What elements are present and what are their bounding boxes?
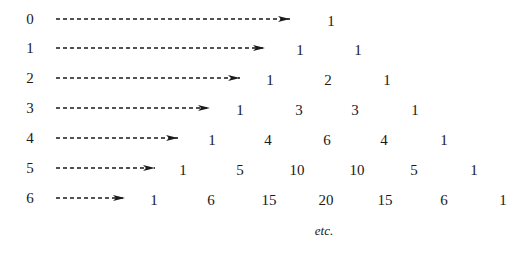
triangle-value: 1 <box>296 42 304 58</box>
triangle-value: 10 <box>290 162 305 178</box>
triangle-value: 1 <box>411 102 419 118</box>
row-label-1: 1 <box>26 40 34 56</box>
triangle-value: 1 <box>150 192 158 208</box>
triangle-value: 6 <box>207 192 215 208</box>
row-arrows <box>0 0 525 253</box>
row-label-6: 6 <box>26 190 34 206</box>
triangle-value: 2 <box>324 72 332 88</box>
triangle-value: 6 <box>323 132 331 148</box>
row-label-4: 4 <box>26 130 34 146</box>
triangle-value: 1 <box>266 72 274 88</box>
etc-caption: etc. <box>315 223 333 239</box>
triangle-value: 5 <box>410 162 418 178</box>
triangle-value: 10 <box>350 162 365 178</box>
row-label-5: 5 <box>26 160 34 176</box>
triangle-value: 20 <box>319 192 334 208</box>
triangle-value: 4 <box>380 132 388 148</box>
row-label-2: 2 <box>26 70 34 86</box>
triangle-value: 6 <box>440 192 448 208</box>
triangle-value: 15 <box>262 192 277 208</box>
triangle-value: 1 <box>383 72 391 88</box>
triangle-value: 15 <box>378 192 393 208</box>
row-label-3: 3 <box>26 100 34 116</box>
triangle-value: 1 <box>236 102 244 118</box>
triangle-value: 1 <box>440 132 448 148</box>
triangle-value: 3 <box>295 102 303 118</box>
triangle-value: 5 <box>236 162 244 178</box>
row-label-0: 0 <box>26 11 34 27</box>
triangle-value: 1 <box>208 132 216 148</box>
triangle-value: 1 <box>499 192 507 208</box>
triangle-value: 4 <box>264 132 272 148</box>
triangle-value: 3 <box>351 102 359 118</box>
triangle-value: 1 <box>354 42 362 58</box>
pascal-triangle-diagram: 0123456 11112113311464115101051161520156… <box>0 0 525 253</box>
triangle-value: 1 <box>470 162 478 178</box>
triangle-value: 1 <box>179 162 187 178</box>
triangle-value: 1 <box>327 13 335 29</box>
